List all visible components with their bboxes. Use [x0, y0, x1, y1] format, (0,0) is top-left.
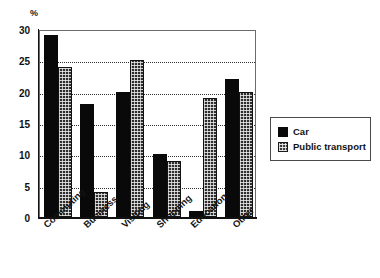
bar-visiting-public-transport — [130, 60, 144, 217]
y-axis-tick-labels: 051015202530 — [8, 0, 30, 278]
plot-area — [39, 30, 256, 218]
bar-business-car — [80, 104, 94, 217]
legend-item-pt[interactable]: Public transport — [278, 139, 364, 154]
y-tick-15: 15 — [10, 119, 30, 130]
bar-chart: % 051015202530 CommutingBusinessVisiting… — [0, 0, 380, 278]
bar-shopping-car — [153, 154, 167, 217]
y-tick-25: 25 — [10, 56, 30, 67]
y-tick-0: 0 — [10, 213, 30, 224]
y-tick-30: 30 — [10, 25, 30, 36]
bar-commuting-car — [44, 35, 58, 217]
y-axis-unit-label: % — [30, 8, 38, 18]
y-tick-20: 20 — [10, 87, 30, 98]
y-axis-line — [38, 29, 39, 219]
legend-swatch-pt-icon — [278, 142, 288, 152]
x-axis-line — [38, 217, 257, 219]
chart-legend: CarPublic transport — [270, 117, 371, 161]
legend-item-car[interactable]: Car — [278, 124, 364, 139]
legend-label: Public transport — [293, 141, 366, 152]
bar-visiting-car — [116, 92, 130, 217]
legend-label: Car — [293, 126, 309, 137]
y-tick-10: 10 — [10, 150, 30, 161]
bar-other-public-transport — [239, 92, 253, 217]
bars-layer — [40, 31, 255, 217]
y-tick-5: 5 — [10, 181, 30, 192]
legend-swatch-car-icon — [278, 127, 288, 137]
